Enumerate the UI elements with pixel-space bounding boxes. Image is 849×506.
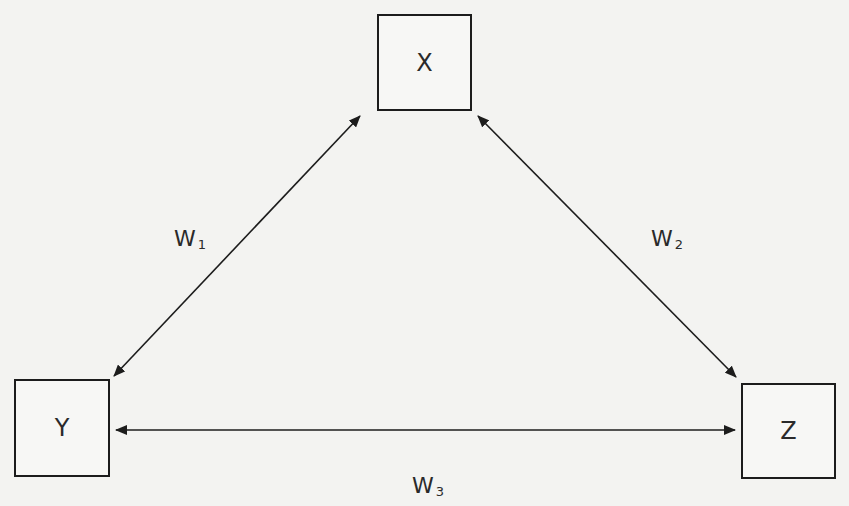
edge-w1-arrow — [114, 116, 360, 376]
node-y-label: Y — [55, 414, 70, 442]
node-y: Y — [14, 379, 110, 477]
node-x-label: X — [416, 49, 432, 77]
edge-w2-label: W2 — [651, 226, 683, 252]
node-z: Z — [741, 383, 836, 479]
edge-w1-label: W1 — [174, 226, 206, 252]
edge-w2-label-main: W — [651, 226, 673, 251]
edge-w3-label: W3 — [412, 473, 444, 499]
node-x: X — [377, 14, 472, 111]
edge-w1-label-main: W — [174, 226, 196, 251]
edge-w1-label-subscript: 1 — [198, 237, 206, 252]
edge-w2-arrow — [478, 116, 736, 377]
node-z-label: Z — [780, 417, 796, 445]
edge-w2-label-subscript: 2 — [675, 237, 683, 252]
edge-w3-label-subscript: 3 — [436, 484, 444, 499]
edge-w3-label-main: W — [412, 473, 434, 498]
